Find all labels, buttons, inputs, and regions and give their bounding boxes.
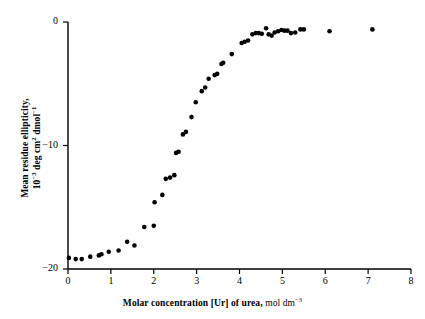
data-point (327, 29, 332, 34)
x-tick-label: 5 (270, 275, 294, 286)
x-tick-label: 7 (356, 275, 380, 286)
data-point (88, 254, 93, 259)
data-point (151, 223, 156, 228)
data-series (67, 26, 375, 262)
data-point (168, 175, 173, 180)
data-point (142, 225, 147, 230)
x-tick-label: 4 (228, 275, 252, 286)
data-point (370, 27, 375, 32)
data-point (293, 30, 298, 35)
x-tick-label: 6 (313, 275, 337, 286)
x-tick-label: 8 (399, 275, 423, 286)
data-point (259, 31, 264, 36)
data-point (221, 60, 226, 65)
data-point (302, 27, 307, 32)
data-point (160, 193, 165, 198)
data-point (215, 72, 220, 77)
data-point (206, 77, 211, 82)
data-point (79, 257, 84, 262)
data-point (176, 149, 181, 154)
y-tick-label: 0 (28, 15, 58, 26)
data-point (289, 31, 294, 36)
plot-area (0, 0, 425, 319)
data-point (172, 173, 177, 178)
y-tick-label: −10 (28, 139, 58, 150)
x-tick-label: 0 (56, 275, 80, 286)
data-point (106, 249, 111, 254)
data-point (163, 177, 168, 182)
data-point (152, 200, 157, 205)
data-point (246, 38, 251, 43)
data-point (199, 89, 204, 94)
data-point (73, 257, 78, 262)
data-point (99, 252, 104, 257)
x-tick-label: 2 (142, 275, 166, 286)
data-point (264, 26, 269, 31)
data-point (132, 243, 137, 248)
x-tick-label: 1 (99, 275, 123, 286)
data-point (193, 100, 198, 105)
data-point (116, 248, 121, 253)
x-tick-label: 3 (185, 275, 209, 286)
data-point (189, 115, 194, 120)
data-point (203, 85, 208, 90)
y-tick-label: −20 (28, 262, 58, 273)
data-point (67, 256, 72, 261)
chart-figure: Mean residue ellipticity, 10−3 deg cm2 d… (0, 0, 425, 319)
data-point (125, 240, 130, 245)
data-point (184, 130, 189, 135)
data-point (229, 52, 234, 57)
